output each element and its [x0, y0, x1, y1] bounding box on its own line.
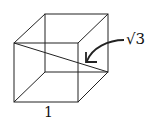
- edge-bottom-left: [14, 72, 45, 102]
- space-diagonal: [14, 43, 108, 72]
- edge-bottom-right: [78, 72, 108, 102]
- edge-label: 1: [44, 105, 53, 119]
- diagonal-label: √3: [126, 32, 145, 47]
- cube-drawing: [0, 0, 152, 126]
- arrow-curve: [87, 40, 124, 61]
- cube-diagram: √3 1: [0, 0, 152, 126]
- edge-top-right: [78, 14, 108, 43]
- edge-top-left: [14, 14, 45, 43]
